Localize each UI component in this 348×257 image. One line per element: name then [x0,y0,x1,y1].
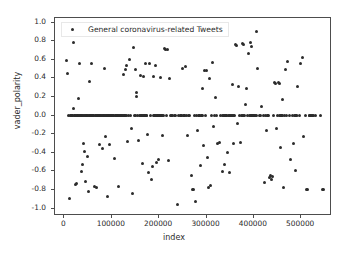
data-point [190,174,193,177]
data-point [301,56,304,59]
data-point [199,164,202,167]
data-point [270,178,273,181]
y-tick-label: -1.0 [32,204,46,212]
data-point [84,180,87,183]
data-point [205,69,208,72]
y-tick-mark [51,170,54,171]
data-point [132,46,135,49]
data-point [201,87,204,90]
data-point [232,142,235,145]
y-tick-mark [51,77,54,78]
y-tick-mark [51,115,54,116]
data-point [66,72,69,75]
data-point [296,85,299,88]
data-point [286,60,289,63]
data-point [72,107,75,110]
data-point [292,142,295,145]
data-point [130,127,133,130]
data-point [239,141,242,144]
data-point [275,127,278,130]
legend-label: General coronavirus-related Tweets [88,25,223,34]
data-point [144,62,147,65]
data-point [108,143,111,146]
y-tick-label: -0.2 [32,129,46,137]
data-point [282,186,285,189]
data-point [302,135,305,138]
x-tick-mark [206,215,207,218]
y-tick-label: -0.8 [32,185,46,193]
data-point [319,114,322,117]
data-point [142,75,145,78]
data-point [124,68,127,71]
y-tick-label: 1.0 [34,18,46,26]
data-point [194,200,197,203]
data-point [204,114,207,117]
data-point [250,45,253,48]
data-point [151,165,154,168]
data-point [117,185,120,188]
data-point [154,64,157,67]
data-point [310,114,313,117]
data-point [281,98,284,101]
data-point [129,114,132,117]
data-point [256,67,259,70]
data-point [244,103,247,106]
data-point [299,62,302,65]
data-point [75,182,78,185]
data-point [236,122,239,125]
data-point [161,114,164,117]
data-point [214,96,217,99]
data-point [226,151,229,154]
data-point [78,62,81,65]
data-point [141,162,144,165]
scatter-chart-figure: General coronavirus-related Tweets -1.0-… [0,0,348,257]
data-point [192,188,195,191]
data-point [322,188,325,191]
data-point [263,181,266,184]
data-point [68,197,71,200]
data-point [147,171,150,174]
y-tick-label: 0.0 [34,111,46,119]
data-point [80,170,83,173]
data-point [186,134,189,137]
data-point [98,143,101,146]
data-point [134,68,137,71]
data-point [72,41,75,44]
data-point [152,75,155,78]
y-tick-label: -0.6 [32,166,46,174]
data-point [245,87,248,90]
data-point [137,139,140,142]
data-point [218,141,221,144]
y-tick-label: 0.4 [34,73,46,81]
y-tick-mark [51,208,54,209]
data-point [188,114,191,117]
data-point [176,203,179,206]
data-point [209,184,212,187]
x-tick-label: 500000 [270,219,330,228]
data-point [294,169,297,172]
y-tick-mark [51,189,54,190]
data-point [103,67,106,70]
data-point [255,30,258,33]
data-point [161,134,164,137]
data-point [82,142,85,145]
data-point [284,68,287,71]
data-point [83,150,86,153]
data-point [155,161,158,164]
data-point [128,58,131,61]
x-tick-mark [158,215,159,218]
data-point [242,43,245,46]
chart-legend: General coronavirus-related Tweets [61,22,229,37]
data-point [125,64,128,67]
data-point [95,186,98,189]
data-point [167,159,170,162]
data-point [65,59,68,62]
data-point [247,52,250,55]
x-tick-mark [63,215,64,218]
data-point [135,95,138,98]
data-point [272,114,275,117]
plot-area: General coronavirus-related Tweets [54,17,331,215]
data-point [185,114,188,117]
y-tick-mark [51,59,54,60]
data-point [298,114,301,117]
